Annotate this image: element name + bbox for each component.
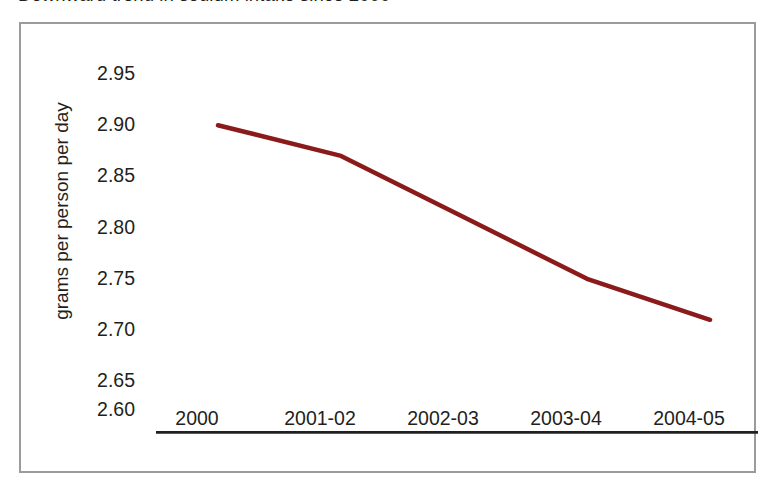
y-tick-label: 2.65 bbox=[73, 371, 135, 391]
y-tick-label: 2.80 bbox=[73, 218, 135, 238]
y-axis-title: grams per person per day bbox=[51, 66, 73, 356]
y-tick-label: 2.75 bbox=[73, 269, 135, 289]
x-tick-label: 2003-04 bbox=[530, 407, 602, 430]
y-tick-label: 2.85 bbox=[73, 166, 135, 186]
y-tick-label: 2.95 bbox=[73, 64, 135, 84]
x-tick-label: 2002-03 bbox=[407, 407, 479, 430]
x-tick-label: 2001-02 bbox=[284, 407, 356, 430]
chart-title: Downward trend in sodium intake since 20… bbox=[18, 0, 718, 6]
y-tick-label: 2.70 bbox=[73, 320, 135, 340]
chart-screenshot: Downward trend in sodium intake since 20… bbox=[0, 0, 774, 492]
x-axis-tick-labels: 2000 2001-02 2002-03 2003-04 2004-05 bbox=[113, 395, 737, 439]
x-tick-label: 2000 bbox=[175, 407, 218, 430]
data-series-line bbox=[218, 125, 710, 320]
y-tick-label: 2.90 bbox=[73, 115, 135, 135]
x-tick-label: 2004-05 bbox=[653, 407, 725, 430]
